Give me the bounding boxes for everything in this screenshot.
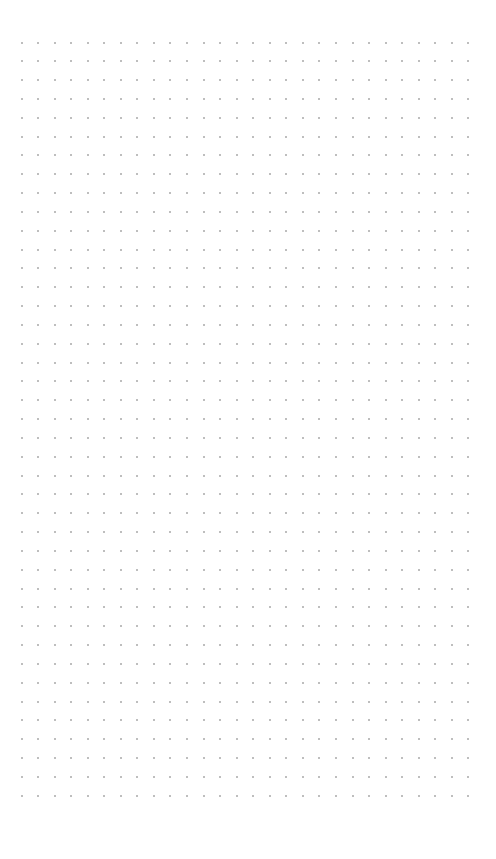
grid-dot (236, 324, 238, 326)
grid-dot (186, 757, 188, 759)
grid-dot (21, 701, 23, 703)
grid-dot (169, 60, 171, 62)
grid-dot (252, 550, 254, 552)
grid-dot (269, 192, 271, 194)
grid-dot (21, 588, 23, 590)
grid-dot (54, 173, 56, 175)
grid-dot (70, 644, 72, 646)
grid-dot (120, 343, 122, 345)
grid-dot (186, 719, 188, 721)
grid-dot (21, 267, 23, 269)
grid-dot (269, 569, 271, 571)
grid-dot (21, 286, 23, 288)
grid-dot (120, 719, 122, 721)
grid-dot (269, 719, 271, 721)
grid-dot (153, 192, 155, 194)
grid-dot (136, 625, 138, 627)
grid-dot (186, 418, 188, 420)
grid-dot (385, 588, 387, 590)
grid-dot (318, 493, 320, 495)
grid-dot (186, 701, 188, 703)
grid-dot (169, 682, 171, 684)
grid-dot (37, 606, 39, 608)
grid-dot (153, 117, 155, 119)
grid-dot (401, 380, 403, 382)
grid-dot (302, 738, 304, 740)
grid-dot (385, 343, 387, 345)
grid-dot (451, 682, 453, 684)
grid-dot (87, 475, 89, 477)
grid-dot (153, 719, 155, 721)
grid-dot (136, 531, 138, 533)
grid-dot (434, 512, 436, 514)
grid-dot (252, 493, 254, 495)
grid-dot (401, 211, 403, 213)
grid-dot (467, 343, 469, 345)
grid-dot (120, 380, 122, 382)
grid-dot (252, 324, 254, 326)
grid-dot (136, 606, 138, 608)
grid-dot (203, 173, 205, 175)
grid-dot (335, 154, 337, 156)
grid-dot (368, 644, 370, 646)
grid-dot (434, 644, 436, 646)
grid-dot (186, 437, 188, 439)
grid-dot (434, 475, 436, 477)
grid-dot (434, 719, 436, 721)
grid-dot (136, 475, 138, 477)
grid-dot (87, 362, 89, 364)
grid-dot (418, 211, 420, 213)
grid-dot (401, 757, 403, 759)
grid-dot (434, 795, 436, 797)
grid-dot (269, 550, 271, 552)
grid-dot (335, 305, 337, 307)
grid-dot (136, 98, 138, 100)
grid-dot (418, 154, 420, 156)
grid-dot (136, 42, 138, 44)
grid-dot (252, 719, 254, 721)
grid-dot (418, 531, 420, 533)
grid-dot (252, 757, 254, 759)
grid-dot (352, 625, 354, 627)
grid-dot (103, 701, 105, 703)
grid-dot (103, 437, 105, 439)
grid-dot (252, 267, 254, 269)
grid-dot (236, 456, 238, 458)
grid-dot (153, 569, 155, 571)
grid-dot (418, 418, 420, 420)
grid-dot (318, 418, 320, 420)
grid-dot (451, 192, 453, 194)
grid-dot (352, 60, 354, 62)
grid-dot (252, 588, 254, 590)
grid-dot (285, 531, 287, 533)
grid-dot (302, 512, 304, 514)
grid-dot (169, 550, 171, 552)
grid-dot (252, 211, 254, 213)
grid-dot (219, 757, 221, 759)
grid-dot (401, 701, 403, 703)
grid-dot (219, 79, 221, 81)
grid-dot (70, 192, 72, 194)
grid-dot (54, 475, 56, 477)
dot-grid-canvas[interactable] (0, 0, 496, 859)
grid-dot (103, 663, 105, 665)
grid-dot (219, 663, 221, 665)
grid-dot (87, 776, 89, 778)
grid-dot (203, 380, 205, 382)
grid-dot (186, 663, 188, 665)
grid-dot (120, 625, 122, 627)
grid-dot (401, 418, 403, 420)
grid-dot (219, 42, 221, 44)
grid-dot (54, 42, 56, 44)
grid-dot (169, 776, 171, 778)
grid-dot (153, 456, 155, 458)
grid-dot (236, 418, 238, 420)
grid-dot (418, 267, 420, 269)
grid-dot (252, 531, 254, 533)
grid-dot (252, 60, 254, 62)
grid-dot (236, 362, 238, 364)
grid-dot (21, 682, 23, 684)
grid-dot (87, 380, 89, 382)
grid-dot (103, 418, 105, 420)
grid-dot (318, 343, 320, 345)
